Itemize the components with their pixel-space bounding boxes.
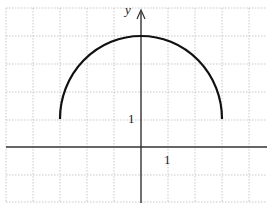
y-axis-label: y bbox=[125, 3, 131, 16]
y-tick-label: 1 bbox=[128, 112, 135, 125]
grid bbox=[6, 8, 267, 203]
graph bbox=[0, 0, 267, 207]
x-tick-label: 1 bbox=[164, 153, 171, 166]
